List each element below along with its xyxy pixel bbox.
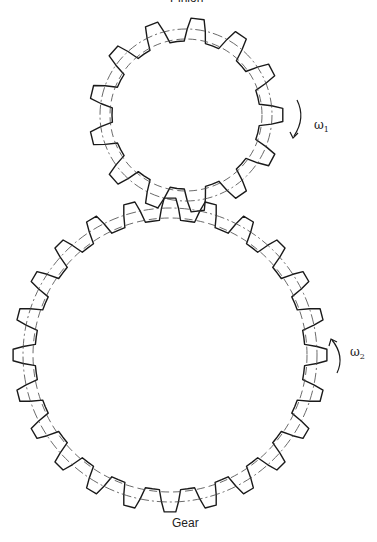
gear-tooth-profile: [91, 18, 283, 212]
omega2-arrow-icon: [329, 339, 340, 373]
pinion-label: Pinion: [170, 0, 203, 5]
gear-label: Gear: [172, 516, 199, 530]
base-circle: [110, 39, 262, 191]
gear-tooth-profile: [13, 198, 327, 512]
gear: [13, 198, 327, 512]
omega1-arrow-icon: [290, 100, 301, 138]
omega1-label: ω1: [314, 118, 329, 134]
pitch-circle: [23, 208, 317, 502]
omega2-label: ω2: [350, 345, 365, 361]
pinion: [91, 18, 283, 212]
gear-mesh-diagram: [0, 0, 377, 542]
base-circle: [33, 218, 307, 492]
pitch-circle: [100, 29, 272, 201]
